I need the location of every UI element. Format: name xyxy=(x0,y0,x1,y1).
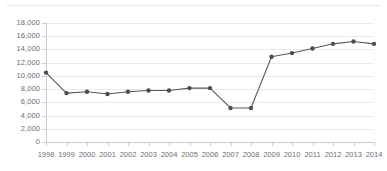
data-point-marker xyxy=(105,92,109,96)
data-point-marker xyxy=(290,51,294,55)
data-point-marker xyxy=(351,39,355,43)
data-point-marker xyxy=(44,70,48,74)
data-point-marker xyxy=(331,42,335,46)
data-point-marker xyxy=(228,106,232,110)
series-line xyxy=(46,42,374,108)
chart-container: 02,0004,0006,0008,00010,00012,00014,0001… xyxy=(0,0,387,171)
data-point-marker xyxy=(372,42,376,46)
data-point-marker xyxy=(126,90,130,94)
data-point-marker xyxy=(208,86,212,90)
data-point-marker xyxy=(167,88,171,92)
data-point-marker xyxy=(249,106,253,110)
data-point-marker xyxy=(146,88,150,92)
data-point-marker xyxy=(310,46,314,50)
data-point-marker xyxy=(269,55,273,59)
data-point-marker xyxy=(64,91,68,95)
series-markers xyxy=(44,39,376,110)
data-point-marker xyxy=(187,86,191,90)
data-point-marker xyxy=(85,90,89,94)
line-series-svg xyxy=(0,0,387,171)
